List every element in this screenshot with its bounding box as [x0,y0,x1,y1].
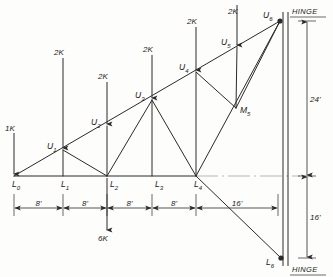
web-U3-L4 [152,100,196,176]
pin-joint-u6 [277,18,282,23]
web-U1-L2 [63,150,107,176]
dimension-label-3: 8' [171,199,177,208]
load-L0-label: 1K [5,124,15,133]
dimension-label-1: 8' [82,199,88,208]
node-label-l3: L3 [155,179,164,191]
node-label-u5: U5 [221,37,231,49]
hinge-top-label: HINGE [292,7,318,16]
dimension-label-0: 8' [36,199,42,208]
dimension-label-4: 16' [232,199,243,208]
hinge-labels-group: HINGEHINGE [290,7,326,275]
dimension-label-2: 8' [127,199,133,208]
web-L4-U6 [196,21,280,176]
node-label-m5: M5 [240,105,251,117]
vertical-M5-U5 [236,47,237,108]
load-U5-label: 2K [227,7,238,16]
vertical-dimension-label-0: 24' [309,95,321,104]
node-label-u2: U2 [91,117,101,129]
node-label-u3: U3 [135,90,145,102]
node-label-l6: L6 [266,257,275,269]
node-label-l0: L0 [12,179,21,191]
web-L2-U3 [107,100,152,176]
vertical-dimension-label-1: 16' [310,213,321,222]
column-group [277,12,288,266]
node-label-u4: U4 [179,62,189,74]
load-L2-label: 6K [98,234,108,243]
truss-diagram-canvas: 1K2K2K2K2K2K6K 8'8'8'8'16' 24'16' L0L1L2… [0,0,333,277]
horizontal-dimensions-group: 8'8'8'8'16' [14,194,278,216]
hinge-bottom-label: HINGE [292,265,318,274]
node-label-l1: L1 [61,179,69,191]
node-label-u1: U1 [47,141,56,153]
truss-diagram-sheet: 1K2K2K2K2K2K6K 8'8'8'8'16' 24'16' L0L1L2… [0,0,333,277]
web-U4-M5 [196,72,236,108]
load-U1-label: 2K [53,48,64,57]
node-label-l2: L2 [110,179,119,191]
load-U2-label: 2K [97,72,108,81]
node-label-u6: U6 [263,10,273,22]
load-U3-label: 2K [142,45,153,54]
load-U4-label: 2K [186,17,197,26]
web-L4-L6 [196,176,281,258]
vertical-dimensions-group: 24'16' [298,21,321,258]
pin-joint-l6 [278,255,283,260]
